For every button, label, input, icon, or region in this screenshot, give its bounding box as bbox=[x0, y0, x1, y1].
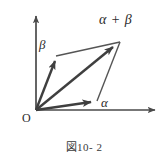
vector-label-alpha: α bbox=[101, 96, 108, 109]
vector-label-alpha-plus-beta: α + β bbox=[99, 13, 132, 27]
figure-caption: 図10- 2 bbox=[0, 138, 168, 154]
origin-label: O bbox=[22, 112, 31, 124]
vector-label-beta: β bbox=[39, 38, 45, 51]
vector-addition-figure: α + β β α O 図10- 2 bbox=[0, 0, 168, 159]
vector-diagram-canvas bbox=[0, 0, 168, 159]
construction-lines-group bbox=[56, 42, 120, 101]
